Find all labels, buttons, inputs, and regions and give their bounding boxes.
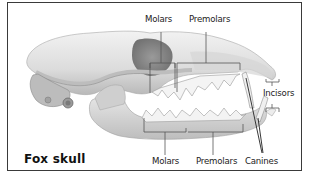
label-upper-premolars: Premolars: [189, 14, 230, 24]
label-lower-molars: Molars: [152, 156, 179, 166]
diagram-title: Fox skull: [24, 152, 86, 166]
label-canines: Canines: [245, 156, 278, 166]
label-incisors: Incisors: [263, 88, 294, 98]
label-lower-premolars: Premolars: [196, 156, 237, 166]
label-upper-molars: Molars: [145, 14, 172, 24]
cranium: [27, 31, 276, 108]
